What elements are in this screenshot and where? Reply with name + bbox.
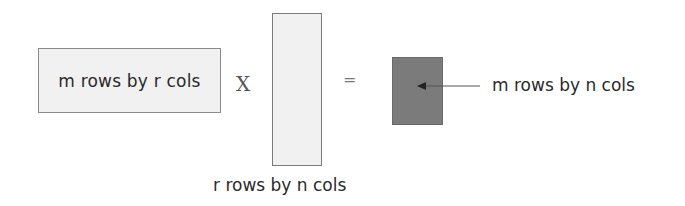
matrix-b-box	[272, 13, 322, 166]
matrix-a-box: m rows by r cols	[38, 48, 221, 113]
matrix-b-label: r rows by n cols	[213, 175, 346, 195]
arrow-icon	[414, 78, 484, 94]
matrix-a-label: m rows by r cols	[58, 71, 200, 91]
matrix-c-label: m rows by n cols	[492, 75, 635, 95]
equals-operator: =	[343, 70, 356, 89]
multiply-operator: X	[236, 72, 250, 96]
